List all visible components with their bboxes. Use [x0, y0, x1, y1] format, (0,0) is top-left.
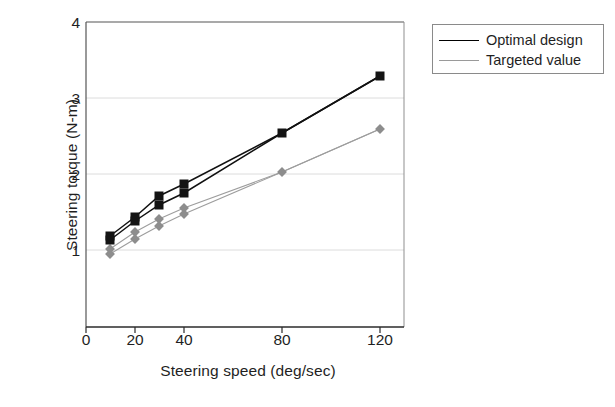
legend-label: Optimal design [486, 32, 583, 48]
x-tick-label: 20 [126, 332, 143, 348]
legend-entry-targeted-value: Targeted value [433, 50, 603, 70]
x-axis-title: Steering speed (deg/sec) [88, 362, 408, 380]
legend-line [439, 40, 479, 41]
legend-entry-optimal-design: Optimal design [433, 30, 603, 50]
chart-legend: Optimal design Targeted value [432, 24, 604, 74]
chart-figure: Steering torque (N-m) 4 3 2 1 [0, 0, 615, 407]
x-tick-label: 80 [273, 332, 290, 348]
legend-sample-optimal-design [439, 32, 479, 48]
diamond-marker-icon [454, 55, 456, 73]
legend-line [439, 60, 479, 61]
x-tick-label: 0 [82, 332, 91, 348]
x-tick-label: 40 [175, 332, 192, 348]
x-tick-label: 120 [367, 332, 393, 348]
legend-sample-targeted-value [439, 52, 479, 68]
legend-label: Targeted value [486, 52, 581, 68]
